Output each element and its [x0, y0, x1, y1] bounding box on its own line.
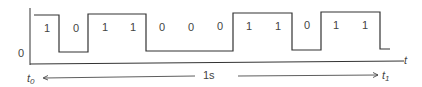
bit-label: 0	[73, 22, 79, 34]
bit-label: 0	[217, 20, 223, 32]
left-duration-arrow	[44, 76, 195, 78]
bit-label: 0	[188, 21, 194, 33]
bit-label: 1	[130, 21, 136, 33]
bit-labels: 1 0 1 1 0 0 0 1 1 0 1 1	[44, 19, 368, 34]
bit-label: 0	[159, 21, 165, 33]
y-axis-zero-label: 0	[18, 47, 24, 59]
x-axis-t-label: t	[404, 54, 408, 66]
bit-label: 1	[362, 19, 368, 31]
signal-waveform	[34, 12, 390, 52]
bit-label: 1	[333, 19, 339, 31]
bit-label: 1	[246, 20, 252, 32]
t1-label: t1	[382, 69, 390, 83]
x-axis	[30, 61, 404, 64]
right-duration-arrow	[238, 75, 378, 76]
bit-label: 0	[304, 19, 310, 31]
bit-label: 1	[44, 22, 50, 34]
bit-label: 1	[102, 21, 108, 33]
bit-waveform-diagram: 1 0 1 1 0 0 0 1 1 0 1 1 0 t t0 1s t1	[0, 0, 422, 87]
duration-label: 1s	[203, 69, 215, 81]
bit-label: 1	[275, 20, 281, 32]
t0-label: t0	[27, 72, 35, 86]
